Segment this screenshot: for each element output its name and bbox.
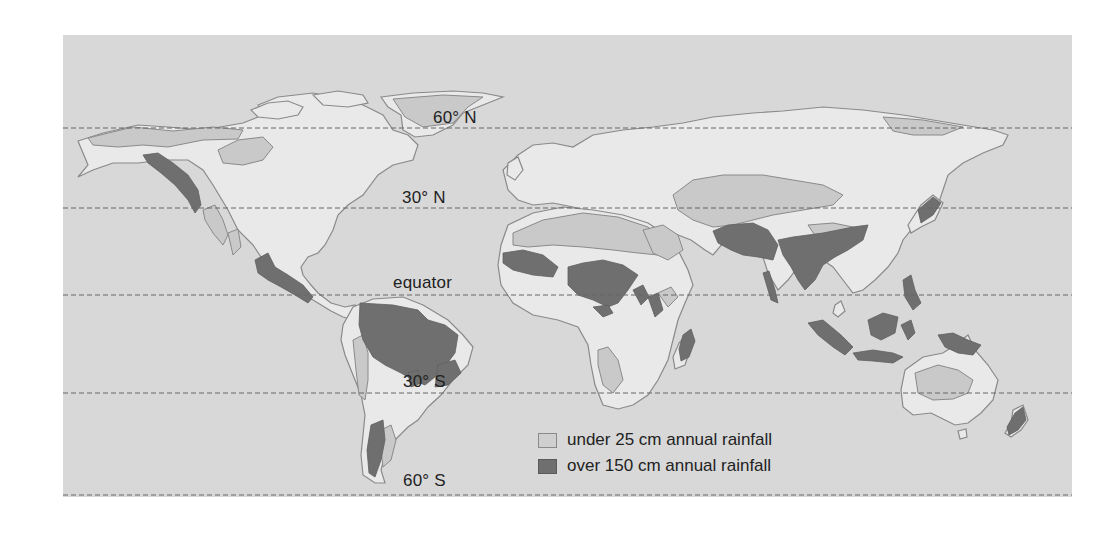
latitude-label-60s: 60° S: [403, 471, 446, 491]
latitude-label-60n: 60° N: [433, 108, 477, 128]
dry-swatch-icon: [538, 433, 557, 448]
legend-item-wet: over 150 cm annual rainfall: [538, 453, 772, 479]
legend-item-dry: under 25 cm annual rainfall: [538, 427, 772, 453]
map-legend: under 25 cm annual rainfall over 150 cm …: [538, 427, 772, 479]
legend-label-dry: under 25 cm annual rainfall: [567, 430, 772, 450]
wet-swatch-icon: [538, 459, 557, 474]
legend-label-wet: over 150 cm annual rainfall: [567, 456, 771, 476]
latitude-label-30s: 30° S: [403, 372, 446, 392]
latitude-label-30n: 30° N: [402, 188, 446, 208]
world-map: 60° N 30° N equator 30° S 60° S under 25…: [63, 35, 1072, 497]
equator-label: equator: [393, 273, 452, 293]
